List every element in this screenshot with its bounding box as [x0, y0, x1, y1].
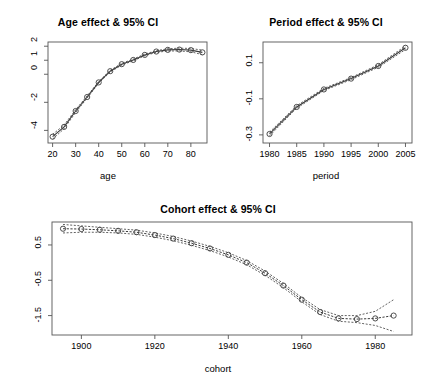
x-tick-label: 70: [163, 149, 173, 159]
y-tick-label: -2: [29, 93, 39, 109]
x-tick-label: 2005: [395, 149, 415, 159]
y-tick-label: -0.3: [244, 126, 254, 142]
x-tick-label: 1920: [145, 341, 165, 351]
y-tick-label: 1: [29, 51, 39, 67]
x-tick-label: 1940: [218, 341, 238, 351]
x-tick-label: 1980: [260, 149, 280, 159]
x-tick-label: 1990: [314, 149, 334, 159]
cohort-effect-panel: Cohort effect & 95% CI cohort 1900192019…: [0, 195, 436, 390]
period-effect-panel: Period effect & 95% CI period 1980198519…: [216, 0, 436, 195]
x-tick-label: 1980: [365, 341, 385, 351]
cohort-axis-label: cohort: [0, 363, 436, 374]
x-tick-label: 60: [140, 149, 150, 159]
x-tick-label: 40: [94, 149, 104, 159]
x-tick-label: 20: [48, 149, 58, 159]
age-panel-title: Age effect & 95% CI: [0, 16, 216, 28]
y-tick-label: -0.5: [33, 271, 43, 287]
y-tick-label: 0.5: [33, 236, 43, 252]
y-tick-label: -1.5: [33, 307, 43, 323]
y-tick-label: 0: [29, 65, 39, 81]
period-axis-label: period: [216, 170, 436, 181]
apc-model-figure: Age effect & 95% CI age 20304050607080-4…: [0, 0, 436, 390]
period-panel-title: Period effect & 95% CI: [216, 16, 436, 28]
x-tick-label: 2000: [368, 149, 388, 159]
x-tick-label: 80: [186, 149, 196, 159]
age-effect-panel: Age effect & 95% CI age 20304050607080-4…: [0, 0, 216, 195]
y-tick-label: -4: [29, 121, 39, 137]
x-tick-label: 1900: [71, 341, 91, 351]
y-tick-label: -0.1: [244, 90, 254, 106]
x-tick-label: 1985: [287, 149, 307, 159]
cohort-panel-title: Cohort effect & 95% CI: [0, 203, 436, 215]
x-tick-label: 50: [117, 149, 127, 159]
x-tick-label: 1960: [292, 341, 312, 351]
x-tick-label: 1995: [341, 149, 361, 159]
cohort-effect-plot: [0, 195, 436, 390]
x-tick-label: 30: [71, 149, 81, 159]
y-tick-label: 0.1: [244, 54, 254, 70]
y-tick-label: 2: [29, 37, 39, 53]
age-axis-label: age: [0, 170, 216, 181]
